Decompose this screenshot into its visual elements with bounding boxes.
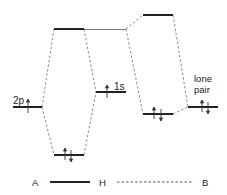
legend-atom-a: A [32, 177, 39, 188]
connector-lower-right-to-lonepair [173, 107, 188, 114]
connector-2p-to-antibonding [42, 29, 54, 107]
label-1s: 1s [114, 81, 125, 92]
legend-atom-h: H [99, 177, 106, 188]
connector-2p-to-bonding [42, 107, 54, 155]
connector-to-upper-right [126, 15, 143, 29]
legend: A H B [32, 177, 208, 188]
label-2p: 2p [13, 95, 25, 106]
label-pair: pair [194, 84, 210, 95]
connector-upper-right-to-lonepair [173, 15, 188, 107]
mo-diagram: 2p 1s lone pair A H B [0, 0, 227, 195]
legend-atom-b: B [202, 177, 208, 188]
connector-bonding-to-1s [84, 92, 96, 155]
label-lone: lone [194, 73, 212, 84]
electrons [27, 85, 210, 162]
connector-antibonding-to-1s [84, 29, 96, 92]
connector-to-lower-right [126, 29, 143, 114]
